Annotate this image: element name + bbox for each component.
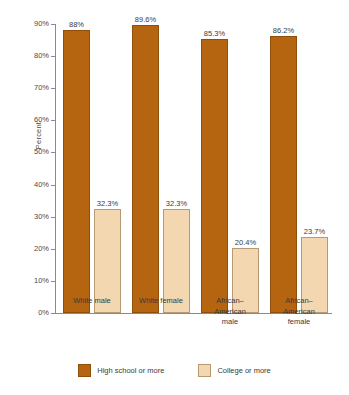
bar[interactable]: 85.3% (201, 39, 228, 313)
y-tick-label: 60% (34, 115, 49, 124)
legend-label: College or more (217, 366, 270, 375)
y-tick-label: 80% (34, 51, 49, 60)
y-tick-mark (51, 120, 55, 121)
y-tick-label: 40% (34, 180, 49, 189)
x-axis-label-line: male (194, 317, 266, 328)
y-tick-mark (51, 249, 55, 250)
y-tick-label: 10% (34, 276, 49, 285)
bar-chart: Percent 0%10%20%30%40%50%60%70%80%90% 88… (0, 0, 349, 395)
chart-legend: High school or moreCollege or more (0, 364, 349, 377)
legend-swatch (198, 364, 211, 377)
bar-group: 86.2%23.7% (266, 24, 332, 313)
bar-group: 85.3%20.4% (197, 24, 263, 313)
x-axis-label-line: American (263, 307, 335, 318)
y-tick-label: 90% (34, 19, 49, 28)
bar[interactable]: 88% (63, 30, 90, 313)
y-tick-label: 20% (34, 244, 49, 253)
x-axis-label-line: African– (263, 296, 335, 307)
bar-value-label: 32.3% (166, 199, 187, 208)
x-axis-label: White female (125, 296, 197, 307)
legend-label: High school or more (97, 366, 164, 375)
x-axis-label-line: African– (194, 296, 266, 307)
bar[interactable]: 89.6% (132, 25, 159, 313)
bar-value-label: 23.7% (304, 227, 325, 236)
x-axis-label-line: American (194, 307, 266, 318)
y-axis-line (55, 24, 56, 314)
x-axis-label-line: White female (125, 296, 197, 307)
y-tick-mark (51, 217, 55, 218)
bar-group: 89.6%32.3% (128, 24, 194, 313)
bar-value-label: 85.3% (204, 29, 225, 38)
y-tick-label: 30% (34, 212, 49, 221)
y-tick-label: 50% (34, 147, 49, 156)
y-tick-label: 0% (38, 308, 49, 317)
y-tick-mark (51, 24, 55, 25)
y-tick-mark (51, 185, 55, 186)
bar-value-label: 88% (69, 20, 84, 29)
bar-value-label: 32.3% (97, 199, 118, 208)
y-tick-mark (51, 88, 55, 89)
bar-value-label: 20.4% (235, 238, 256, 247)
legend-swatch (78, 364, 91, 377)
y-tick-mark (51, 152, 55, 153)
y-tick-mark (51, 313, 55, 314)
y-tick: 0% (55, 313, 59, 314)
bar-group: 88%32.3% (59, 24, 125, 313)
bar[interactable]: 86.2% (270, 36, 297, 313)
y-tick-label: 70% (34, 83, 49, 92)
y-tick-mark (51, 56, 55, 57)
bar-value-label: 89.6% (135, 15, 156, 24)
bar-value-label: 86.2% (273, 26, 294, 35)
y-tick-mark (51, 281, 55, 282)
x-axis-label-line: female (263, 317, 335, 328)
plot-area: 0%10%20%30%40%50%60%70%80%90% 88%32.3%89… (55, 24, 332, 314)
legend-item[interactable]: College or more (198, 364, 270, 377)
x-axis-label: African–Americanfemale (263, 296, 335, 328)
x-axis-label: African–Americanmale (194, 296, 266, 328)
legend-item[interactable]: High school or more (78, 364, 164, 377)
x-axis-label-line: White male (56, 296, 128, 307)
x-axis-label: White male (56, 296, 128, 307)
